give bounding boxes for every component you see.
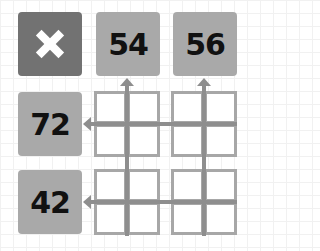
- grid-cell[interactable]: [204, 202, 237, 235]
- column-clue-2: 56: [173, 12, 237, 76]
- grid-cell[interactable]: [204, 124, 237, 157]
- corner-tile[interactable]: [18, 12, 82, 76]
- grid-cell[interactable]: [94, 169, 127, 202]
- row-clue-2-value: 42: [30, 185, 70, 220]
- column-clue-1-value: 54: [108, 27, 148, 62]
- grid-block-r2c2: [171, 169, 237, 235]
- close-icon: [35, 29, 65, 59]
- row-clue-1: 72: [18, 92, 82, 156]
- grid-cell[interactable]: [171, 124, 204, 157]
- grid-block-r1c1: [94, 91, 160, 157]
- arrow-left-icon: [83, 117, 91, 131]
- grid-cell[interactable]: [204, 169, 237, 202]
- arrow-up-icon: [120, 78, 134, 86]
- grid-cell[interactable]: [171, 202, 204, 235]
- grid-block-r2c1: [94, 169, 160, 235]
- grid-cell[interactable]: [94, 91, 127, 124]
- column-clue-2-value: 56: [185, 27, 225, 62]
- grid-cell[interactable]: [171, 91, 204, 124]
- row-clue-2: 42: [18, 170, 82, 234]
- grid-cell[interactable]: [171, 169, 204, 202]
- grid-cell[interactable]: [204, 91, 237, 124]
- grid-block-r1c2: [171, 91, 237, 157]
- grid-cell[interactable]: [127, 124, 160, 157]
- arrow-left-icon: [83, 195, 91, 209]
- grid-cell[interactable]: [94, 202, 127, 235]
- grid-cell[interactable]: [127, 169, 160, 202]
- grid-cell[interactable]: [94, 124, 127, 157]
- grid-cell[interactable]: [127, 202, 160, 235]
- column-clue-1: 54: [96, 12, 160, 76]
- arrow-up-icon: [197, 78, 211, 86]
- grid-cell[interactable]: [127, 91, 160, 124]
- row-clue-1-value: 72: [30, 107, 70, 142]
